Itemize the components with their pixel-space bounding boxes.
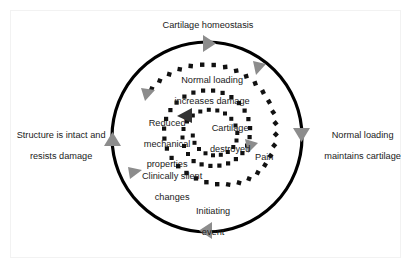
label-initiating-event-line2: event: [202, 227, 224, 237]
label-clinically-silent-changes: Clinically silent changes: [129, 161, 205, 212]
figure-container: Cartilage homeostasis Structure is intac…: [0, 0, 411, 268]
label-pain: Pain: [255, 152, 281, 162]
label-cartilage-destroyed-line1: Cartilage: [212, 123, 249, 133]
label-clinically-silent-line1: Clinically silent: [142, 171, 202, 181]
label-structure-intact-line1: Structure is intact and: [17, 130, 106, 140]
arrow-left-up-icon: [104, 132, 121, 146]
label-normal-loading-increases-line2: increases damage: [175, 96, 250, 106]
label-normal-loading-maintains-line2: maintains cartilage: [324, 151, 401, 161]
spiral-arrow-left-icon: [141, 88, 155, 101]
label-reduced-mechanical-line1: Reduced: [149, 118, 186, 128]
label-normal-loading-maintains-line1: Normal loading: [332, 130, 394, 140]
label-normal-loading-increases-line1: Normal loading: [181, 75, 243, 85]
label-structure-intact: Structure is intact and resists damage: [6, 120, 106, 171]
label-structure-intact-line2: resists damage: [30, 151, 92, 161]
label-normal-loading-maintains: Normal loading maintains cartilage: [308, 120, 407, 171]
label-reduced-mechanical-line2: mechanical: [144, 139, 190, 149]
arrow-top-right-icon: [203, 35, 216, 52]
label-cartilage-destroyed: Cartilage destroyed: [196, 113, 254, 164]
label-clinically-silent-line2: changes: [155, 192, 190, 202]
label-cartilage-destroyed-line2: destroyed: [210, 144, 250, 154]
label-cartilage-homeostasis: Cartilage homeostasis: [143, 20, 273, 30]
